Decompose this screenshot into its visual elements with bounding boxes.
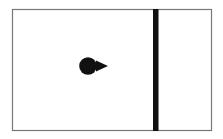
diagram-canvas [0,0,223,139]
room-frame [13,10,212,131]
agent-body-icon [79,57,97,75]
agent-heading-arrow-icon [96,61,108,72]
wall-barrier [153,9,159,131]
